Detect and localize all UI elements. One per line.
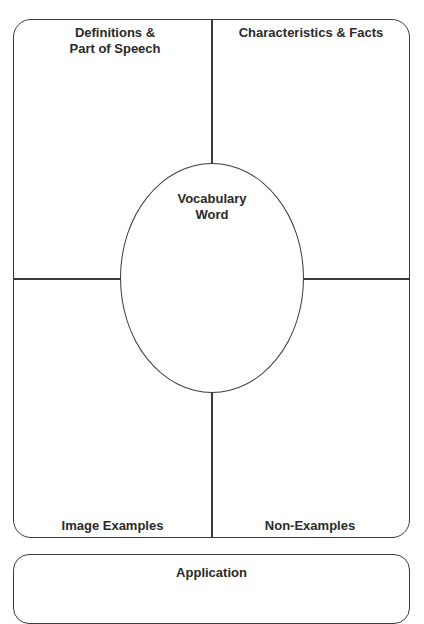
vertical-divider-bottom [211, 392, 213, 537]
quadrant-definitions-label: Definitions & Part of Speech [40, 25, 190, 57]
label-line: Word [140, 207, 284, 223]
label-line: Definitions & [40, 25, 190, 41]
quadrant-characteristics-label: Characteristics & Facts [216, 25, 406, 41]
vertical-divider-top [211, 20, 213, 164]
horizontal-divider-left [14, 278, 121, 280]
label-line: Part of Speech [40, 41, 190, 57]
application-label: Application [13, 565, 410, 581]
horizontal-divider-right [303, 278, 409, 280]
center-vocabulary-label: Vocabulary Word [140, 191, 284, 223]
quadrant-non-examples-label: Non-Examples [225, 518, 395, 534]
label-line: Vocabulary [140, 191, 284, 207]
quadrant-image-examples-label: Image Examples [30, 518, 195, 534]
